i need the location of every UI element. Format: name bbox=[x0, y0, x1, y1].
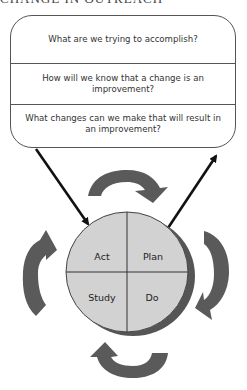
quadrant-do: Do bbox=[145, 292, 158, 303]
quadrant-study: Study bbox=[88, 292, 115, 303]
cycle-arrow-left-icon bbox=[23, 230, 57, 316]
cycle-arrow-right-icon bbox=[195, 231, 229, 320]
cycle-arrow-bottom-icon bbox=[90, 342, 168, 378]
quadrant-act: Act bbox=[94, 251, 109, 262]
quadrant-plan: Plan bbox=[143, 251, 163, 262]
arrow-from-plan-icon bbox=[168, 156, 216, 228]
arrow-to-act-icon bbox=[36, 149, 88, 224]
pdsa-cycle-diagram bbox=[0, 0, 247, 390]
cycle-arrow-top-icon bbox=[88, 170, 168, 203]
